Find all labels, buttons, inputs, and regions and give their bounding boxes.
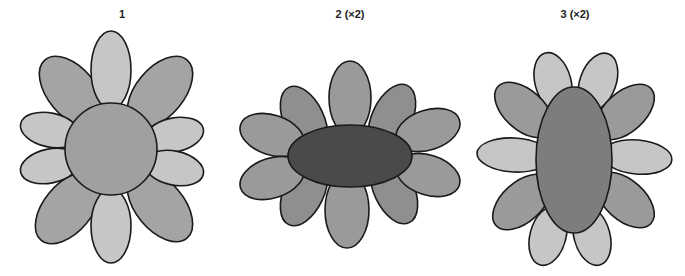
flower-3: [476, 48, 673, 270]
flower-2-center: [288, 125, 412, 187]
flower-diagrams: [0, 0, 685, 276]
flower-1: [17, 31, 207, 263]
flower-1-petal: [91, 189, 131, 263]
flower-2-petal: [329, 61, 371, 135]
flower-2: [234, 61, 465, 248]
flower-1-petal: [91, 31, 131, 109]
flower-1-center: [65, 103, 157, 195]
flower-3-center: [536, 87, 612, 233]
